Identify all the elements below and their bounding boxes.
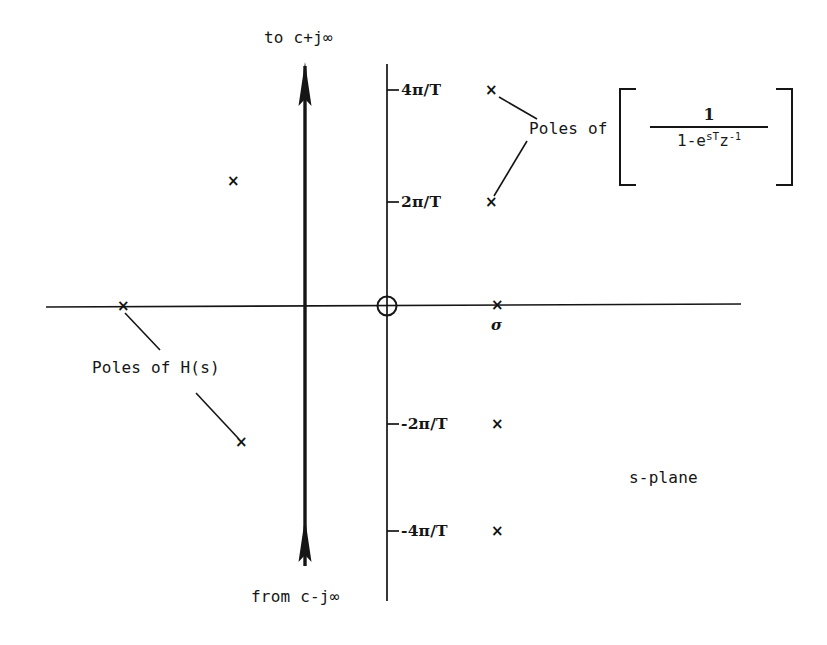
leader-line-to-pole-4pi-T — [499, 97, 537, 119]
leader-line-to-pole-hs-real — [125, 313, 160, 350]
pole-hs-lower-left: × — [235, 435, 248, 450]
formula-denominator-prefix: 1-e — [677, 131, 706, 150]
pole-hs-real-axis: × — [117, 299, 130, 314]
tick-label-neg-4pi-T: -4π/T — [401, 523, 448, 539]
s-plane-diagram: to c+j∞ from c-j∞ 4π/T 2π/T -2π/T -4π/T … — [0, 0, 827, 645]
poles-of-hs-label: Poles of H(s) — [92, 360, 220, 376]
pole-hs-upper-left: × — [227, 174, 240, 189]
pole-sampled-neg-4pi-T: × — [491, 524, 504, 539]
formula-denominator-z-exponent: -1 — [729, 130, 741, 141]
tick-label-4pi-T: 4π/T — [401, 82, 441, 98]
s-plane-label: s-plane — [629, 470, 698, 486]
contour-bottom-label: from c-j∞ — [251, 589, 340, 605]
poles-of-bracket-label: Poles of — [529, 121, 608, 137]
tick-label-2pi-T: 2π/T — [401, 194, 441, 210]
transfer-function-formula: 1 1-esTz-1 — [640, 105, 778, 150]
pole-sampled-neg-2pi-T: × — [491, 417, 504, 432]
contour-top-label: to c+j∞ — [264, 30, 333, 46]
pole-sampled-2pi-T: × — [485, 195, 498, 210]
bracket-open — [620, 89, 636, 185]
sigma-axis-label: σ — [491, 318, 502, 333]
formula-denominator: 1-esTz-1 — [677, 128, 741, 150]
leader-line-to-pole-2pi-T — [494, 141, 527, 196]
tick-label-neg-2pi-T: -2π/T — [401, 416, 448, 432]
real-axis — [46, 304, 741, 307]
pole-sampled-0: × — [491, 298, 504, 313]
leader-line-to-pole-hs-lower — [196, 393, 238, 438]
formula-numerator: 1 — [703, 105, 714, 126]
bracket-close — [776, 89, 792, 185]
formula-denominator-exponent: sT — [706, 129, 719, 142]
pole-sampled-4pi-T: × — [485, 83, 498, 98]
formula-denominator-z: z — [719, 131, 729, 150]
